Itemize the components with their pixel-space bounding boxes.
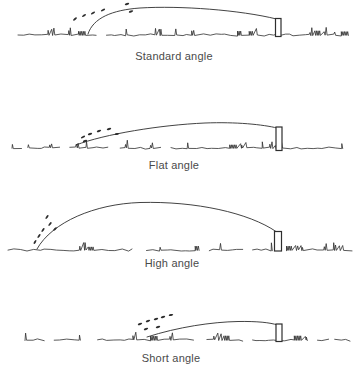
trajectory-figure: Standard angle Flat angle High angle Sho… [0,0,356,373]
panel-label-flat-angle: Flat angle [149,159,199,171]
panel-label-standard-angle: Standard angle [135,50,212,62]
panel-label-high-angle: High angle [145,257,200,269]
panel-label-short-angle: Short angle [142,352,200,364]
